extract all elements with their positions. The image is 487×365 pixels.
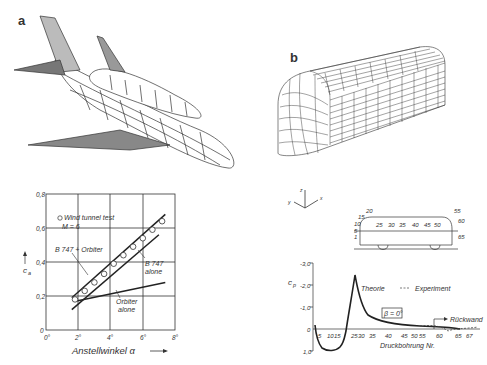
svg-text:y: y — [287, 199, 291, 205]
svg-text:M = 6: M = 6 — [62, 223, 80, 230]
svg-text:4°: 4° — [107, 334, 114, 341]
svg-text:-2,0: -2,0 — [300, 283, 311, 289]
svg-text:0,4: 0,4 — [36, 259, 45, 266]
svg-text:35: 35 — [399, 222, 406, 228]
svg-text:15: 15 — [334, 333, 341, 339]
svg-text:Orbiter: Orbiter — [116, 298, 138, 305]
svg-text:20: 20 — [365, 208, 373, 214]
svg-text:-3,0: -3,0 — [300, 261, 311, 267]
svg-text:c: c — [288, 278, 292, 287]
axes-icon: z y x — [280, 180, 330, 210]
svg-text:45: 45 — [401, 333, 408, 339]
svg-text:60: 60 — [436, 333, 443, 339]
aircraft-wireframe — [0, 0, 240, 180]
svg-text:0,8: 0,8 — [36, 191, 45, 198]
svg-text:35: 35 — [369, 333, 376, 339]
svg-text:50: 50 — [411, 333, 418, 339]
svg-text:5: 5 — [318, 333, 322, 339]
svg-text:a: a — [28, 270, 31, 276]
svg-text:55: 55 — [419, 333, 426, 339]
svg-text:8°: 8° — [172, 334, 179, 341]
svg-text:65: 65 — [455, 333, 462, 339]
svg-text:0,6: 0,6 — [36, 225, 45, 232]
svg-text:15: 15 — [358, 214, 365, 220]
x-axis-label: Druckbohrung Nr. — [380, 342, 435, 350]
rueckwand-label: Rückwand — [450, 316, 484, 323]
svg-text:30: 30 — [358, 333, 365, 339]
svg-text:0,2: 0,2 — [36, 293, 45, 300]
svg-text:1: 1 — [354, 234, 357, 240]
svg-text:65: 65 — [458, 234, 465, 240]
svg-text:Wind tunnel test: Wind tunnel test — [64, 214, 115, 221]
svg-text:40: 40 — [412, 222, 419, 228]
svg-text:6°: 6° — [140, 334, 147, 341]
svg-text:1,0: 1,0 — [303, 349, 312, 355]
lift-coefficient-chart: 0,8 0,6 0,4 0,2 0 0° 2° 4° 6° 8° Wind tu… — [0, 180, 240, 365]
svg-text:60: 60 — [458, 218, 465, 224]
svg-text:25: 25 — [375, 222, 383, 228]
svg-text:p: p — [292, 282, 296, 288]
beta-label: β = 0° — [383, 310, 403, 318]
svg-text:-1,0: -1,0 — [300, 305, 311, 311]
svg-text:2°: 2° — [74, 334, 82, 341]
svg-text:B 747: B 747 — [145, 260, 164, 267]
x-axis-label: Anstellwinkel α — [71, 345, 136, 356]
svg-text:0°: 0° — [44, 334, 51, 341]
svg-text:0: 0 — [307, 327, 311, 333]
svg-text:c: c — [23, 266, 27, 275]
svg-text:67: 67 — [466, 333, 473, 339]
svg-text:55: 55 — [454, 208, 461, 214]
svg-text:10: 10 — [354, 221, 361, 227]
legend-theory: Theorie — [361, 285, 385, 292]
svg-text:alone: alone — [145, 268, 162, 275]
legend-experiment: Experiment — [415, 285, 451, 293]
svg-text:x: x — [319, 195, 323, 201]
pressure-distribution-chart: -3,0 -2,0 -1,0 0 1,0 5 10 15 25 30 35 40… — [270, 255, 487, 365]
svg-text:z: z — [299, 187, 303, 193]
svg-text:30: 30 — [388, 222, 395, 228]
svg-text:45: 45 — [424, 222, 431, 228]
car-body-wireframe — [270, 45, 487, 165]
svg-text:alone: alone — [118, 306, 135, 313]
svg-text:0: 0 — [40, 327, 44, 334]
pressure-tap-schematic: 20 15 10 5 1 25 30 35 40 45 50 55 60 65 — [350, 205, 470, 255]
svg-text:50: 50 — [434, 222, 441, 228]
svg-text:40: 40 — [385, 333, 392, 339]
svg-text:B 747 + Orbiter: B 747 + Orbiter — [55, 246, 103, 253]
